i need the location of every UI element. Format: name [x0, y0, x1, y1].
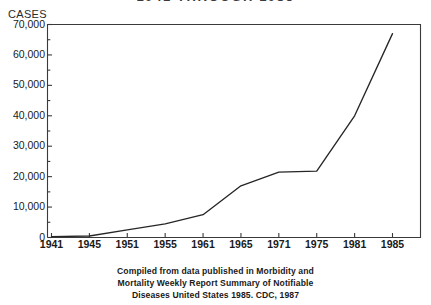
- data-line-cases: [52, 34, 393, 237]
- x-tick-label: 1965: [221, 238, 261, 250]
- x-axis-tick-labels: 1941194519511955196119651971197519811985: [0, 238, 431, 256]
- x-tick-label: 1945: [69, 238, 109, 250]
- line-chart-svg: [0, 0, 431, 260]
- caption-line-3: Diseases United States 1985. CDC, 1987: [0, 289, 431, 301]
- x-tick-label: 1961: [183, 238, 223, 250]
- x-tick-label: 1955: [145, 238, 185, 250]
- y-tick-label: 30,000: [3, 140, 45, 151]
- x-tick-label: 1975: [297, 238, 337, 250]
- y-tick-label: 20,000: [3, 171, 45, 182]
- caption-line-1: Compiled from data published in Morbidit…: [0, 265, 431, 277]
- y-tick-label: 40,000: [3, 110, 45, 121]
- y-axis-tick-labels: 010,00020,00030,00040,00050,00060,00070,…: [0, 0, 45, 260]
- chart-plot-area: [0, 0, 431, 260]
- y-tick-label: 60,000: [3, 49, 45, 60]
- y-tick-label: 70,000: [3, 19, 45, 30]
- y-tick-label: 50,000: [3, 79, 45, 90]
- y-tick-label: 10,000: [3, 201, 45, 212]
- x-tick-label: 1981: [335, 238, 375, 250]
- x-tick-label: 1951: [107, 238, 147, 250]
- x-tick-label: 1971: [259, 238, 299, 250]
- x-tick-label: 1985: [373, 238, 413, 250]
- caption-line-2: Mortality Weekly Report Summary of Notif…: [0, 277, 431, 289]
- plot-frame: [48, 25, 421, 238]
- source-caption: Compiled from data published in Morbidit…: [0, 265, 431, 302]
- x-tick-label: 1941: [32, 238, 72, 250]
